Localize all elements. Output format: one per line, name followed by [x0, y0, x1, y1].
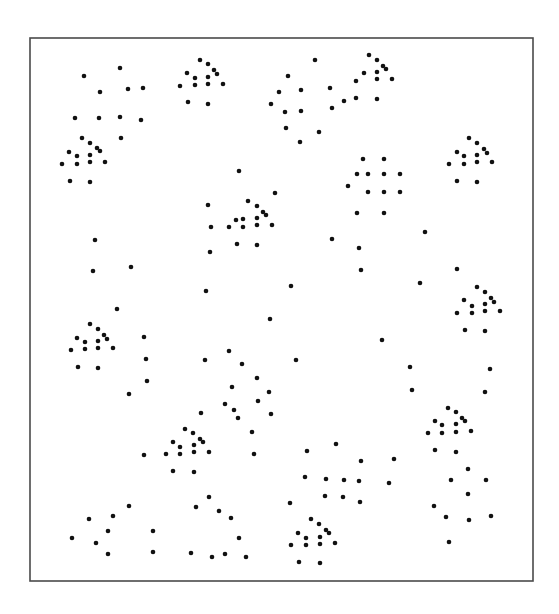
dot	[354, 96, 359, 101]
dot-pattern-figure	[0, 0, 559, 614]
dot	[483, 309, 488, 314]
dot	[194, 505, 199, 510]
dot	[73, 116, 78, 121]
dot	[328, 86, 333, 91]
dot	[367, 53, 372, 58]
dot	[207, 495, 212, 500]
dot	[483, 290, 488, 295]
dot	[418, 281, 423, 286]
dot	[186, 100, 191, 105]
dot	[483, 302, 488, 307]
dot	[164, 452, 169, 457]
dot	[191, 431, 196, 436]
dot	[82, 74, 87, 79]
dot	[88, 160, 93, 165]
dot	[208, 250, 213, 255]
dot	[171, 440, 176, 445]
dot	[475, 180, 480, 185]
dot	[475, 153, 480, 158]
dot	[88, 141, 93, 146]
dot	[235, 242, 240, 247]
dot	[255, 204, 260, 209]
dot	[227, 349, 232, 354]
dot	[277, 90, 282, 95]
dot	[75, 336, 80, 341]
dot	[466, 492, 471, 497]
dot	[102, 333, 107, 338]
dot	[483, 390, 488, 395]
dot	[318, 561, 323, 566]
dot	[289, 543, 294, 548]
dot	[185, 71, 190, 76]
dot	[467, 518, 472, 523]
dot	[423, 230, 428, 235]
dot	[305, 449, 310, 454]
dot	[183, 427, 188, 432]
dot	[358, 500, 363, 505]
dot	[475, 285, 480, 290]
dot	[192, 450, 197, 455]
dot	[444, 515, 449, 520]
dot	[201, 440, 206, 445]
dot	[206, 102, 211, 107]
dot	[244, 555, 249, 560]
dot	[269, 102, 274, 107]
dot	[440, 423, 445, 428]
dot	[237, 169, 242, 174]
dot	[475, 141, 480, 146]
dot	[330, 106, 335, 111]
dot	[96, 327, 101, 332]
dot	[341, 495, 346, 500]
dot	[198, 58, 203, 63]
dot	[382, 157, 387, 162]
dot	[270, 223, 275, 228]
dot	[127, 392, 132, 397]
dot	[141, 86, 146, 91]
dot	[484, 478, 489, 483]
dot	[88, 322, 93, 327]
dot	[236, 416, 241, 421]
dot	[264, 213, 269, 218]
dot	[223, 552, 228, 557]
dot	[463, 328, 468, 333]
dot	[68, 179, 73, 184]
dot	[75, 162, 80, 167]
dot	[296, 531, 301, 536]
dot	[387, 481, 392, 486]
dot	[88, 180, 93, 185]
dot	[470, 311, 475, 316]
dot	[96, 366, 101, 371]
dot	[199, 411, 204, 416]
dot	[309, 517, 314, 522]
dot	[485, 151, 490, 156]
dot	[359, 459, 364, 464]
dot	[323, 494, 328, 499]
dot	[240, 362, 245, 367]
dot	[250, 430, 255, 435]
dot	[129, 265, 134, 270]
dot	[217, 509, 222, 514]
dot	[210, 555, 215, 560]
dot	[151, 550, 156, 555]
dot	[463, 419, 468, 424]
dot	[299, 109, 304, 114]
dot	[118, 66, 123, 71]
dot	[206, 203, 211, 208]
dot	[221, 82, 226, 87]
dot	[432, 504, 437, 509]
dot	[398, 190, 403, 195]
dot	[375, 70, 380, 75]
dot	[289, 284, 294, 289]
dot	[283, 110, 288, 115]
dot	[127, 504, 132, 509]
dot	[354, 79, 359, 84]
dot	[324, 477, 329, 482]
dot	[267, 390, 272, 395]
dot	[111, 346, 116, 351]
dot	[230, 385, 235, 390]
dot	[375, 58, 380, 63]
dot	[286, 74, 291, 79]
dot	[192, 443, 197, 448]
dot	[215, 72, 220, 77]
dot	[98, 90, 103, 95]
